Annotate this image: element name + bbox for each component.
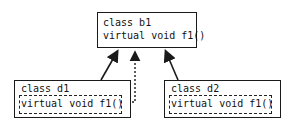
arrow-d1-to-b1 [101,52,117,80]
class-d2-method: virtual void f1() [171,98,273,110]
class-b1-name: class b1 [103,17,151,29]
arrow-d2-to-b1 [166,52,178,80]
class-b1-method: virtual void f1() [103,30,205,42]
class-b1-box: class b1 virtual void f1() [97,12,197,48]
class-d2-method-box: virtual void f1() [169,95,272,114]
class-d2-box: class d2 virtual void f1() [164,80,281,118]
class-d1-box: class d1 virtual void f1() [14,80,131,118]
class-d1-method-box: virtual void f1() [19,95,122,114]
class-d1-name: class d1 [21,83,69,95]
class-d1-method: virtual void f1() [21,98,123,110]
class-d2-name: class d2 [171,83,219,95]
